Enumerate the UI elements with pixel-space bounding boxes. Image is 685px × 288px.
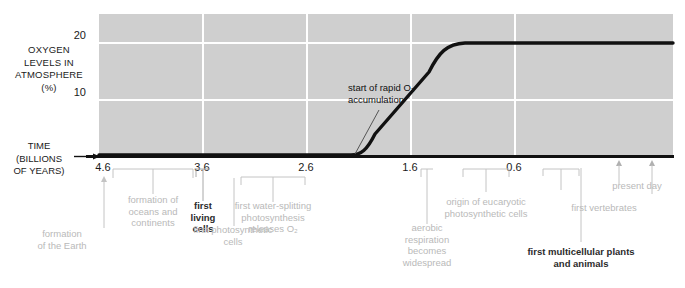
event-label-first-multicellular-plants-and-animals: first multicellular plants and animals [527, 246, 634, 269]
event-water-splitting-line-1: first water-splitting [235, 200, 312, 212]
event-aerobic-line-3: becomes [403, 245, 452, 257]
event-label-aerobic-respiration: aerobic respiration becomes widespread [403, 222, 452, 268]
event-multicellular-line-1: first multicellular plants [527, 246, 634, 258]
event-aerobic-line-1: aerobic [403, 222, 452, 234]
y-axis-title-line-2: LEVELS IN [6, 57, 92, 70]
event-first-living-cells-line-1: first [191, 200, 216, 212]
event-label-origin-of-eucaryotic-photosynthetic-cells: origin of eucaryotic photosynthetic cell… [445, 196, 528, 219]
event-first-vertebrates-line-1: first vertebrates [571, 202, 636, 214]
x-tick-label-4-6: 4.6 [95, 161, 110, 173]
annotation-leader-line [347, 110, 387, 156]
x-tick-label-1-6: 1.6 [402, 161, 417, 173]
event-label-first-vertebrates: first vertebrates [571, 202, 636, 214]
y-tick-label-20: 20 [64, 29, 86, 41]
connector-aerobic-respiration [420, 168, 434, 224]
event-oceans-line-1: formation of [128, 194, 178, 206]
x-axis-title-line-3: OF YEARS) [2, 165, 76, 178]
oxygen-timeline-figure: OXYGEN LEVELS IN ATMOSPHERE (%) 20 10 TI… [0, 0, 685, 288]
event-multicellular-line-2: and animals [527, 258, 634, 270]
event-label-present-day: present day [612, 180, 662, 192]
event-first-living-cells-line-2: living [191, 212, 216, 224]
event-eucaryotic-line-1: origin of eucaryotic [445, 196, 528, 208]
y-tick-label-10: 10 [64, 86, 86, 98]
x-axis-title-line-2: (BILLIONS [2, 153, 76, 166]
event-water-splitting-line-2: photosynthesis [235, 212, 312, 224]
y-axis-title-line-1: OXYGEN [6, 44, 92, 57]
event-formation-of-the-earth-line-2: of the Earth [37, 240, 86, 252]
event-eucaryotic-line-2: photosynthetic cells [445, 208, 528, 220]
event-oceans-line-3: continents [128, 217, 178, 229]
event-water-splitting-line-3: releases O₂ [235, 223, 312, 235]
rapid-o2-annotation-line-1: start of rapid O₂ [348, 82, 415, 94]
rapid-o2-annotation: start of rapid O₂ accumulation [348, 82, 415, 106]
x-tick-label-2-6: 2.6 [298, 161, 313, 173]
connector-first-vertebrates [542, 168, 580, 192]
x-axis-title: TIME (BILLIONS OF YEARS) [2, 140, 76, 178]
connector-origin-of-eucaryotic-photosynthetic-cells [462, 168, 510, 194]
y-axis-title-line-3: ATMOSPHERE [6, 69, 92, 82]
connector-first-living-cells [195, 168, 211, 202]
event-oceans-line-2: oceans and [128, 206, 178, 218]
x-axis-title-line-1: TIME [2, 140, 76, 153]
event-label-formation-of-the-earth: formation of the Earth [37, 228, 86, 251]
event-formation-of-the-earth-line-1: formation [37, 228, 86, 240]
event-aerobic-line-4: widespread [403, 257, 452, 269]
rapid-o2-annotation-line-2: accumulation [348, 94, 415, 106]
time-axis-line [86, 155, 674, 158]
connector-formation-of-oceans-and-continents [112, 168, 194, 196]
event-first-photosynthetic-cells-line-2: cells [193, 236, 272, 248]
connector-formation-of-the-earth [96, 176, 112, 228]
event-aerobic-line-2: respiration [403, 234, 452, 246]
event-label-first-water-splitting-photosynthesis: first water-splitting photosynthesis rel… [235, 200, 312, 235]
event-present-day-line-1: present day [612, 180, 662, 192]
event-label-formation-of-oceans-and-continents: formation of oceans and continents [128, 194, 178, 229]
